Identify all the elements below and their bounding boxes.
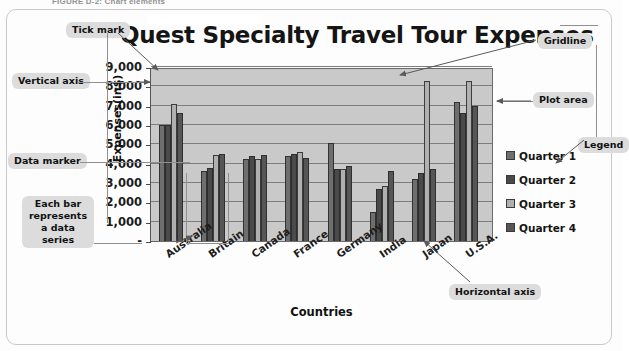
- data-marker-bar: [346, 166, 352, 241]
- chart-title: Quest Specialty Travel Tour Expenses: [120, 22, 510, 48]
- leader-line-data-marker: [80, 162, 190, 163]
- callout-plot-area: Plot area: [533, 92, 594, 108]
- vertical-axis-line: [150, 68, 151, 243]
- tick-mark: [146, 242, 151, 243]
- series-bracket-left: [186, 173, 187, 243]
- leader-line-gridline-top: [560, 25, 598, 26]
- legend-item-label: Quarter 2: [519, 174, 576, 186]
- x-axis-category-labels: AustraliaBritainCanadaFranceGermanyIndia…: [150, 244, 493, 296]
- bar-group: [279, 69, 321, 241]
- chart-legend: Quarter 1Quarter 2Quarter 3Quarter 4: [506, 150, 576, 246]
- data-marker-bar: [388, 171, 394, 241]
- bar-group: [153, 69, 195, 241]
- bar-group: [195, 69, 237, 241]
- legend-swatch-icon: [506, 223, 515, 232]
- plot-area: [150, 68, 493, 242]
- legend-swatch-icon: [506, 151, 515, 160]
- tick-mark: [146, 107, 151, 108]
- bar-groups: [151, 69, 492, 241]
- leader-line-legend-vertical: [596, 45, 597, 137]
- callout-horizontal-axis: Horizontal axis: [449, 284, 541, 300]
- leader-line-left-vertical: [107, 33, 108, 223]
- tick-mark: [146, 87, 151, 88]
- tick-mark: [146, 68, 151, 69]
- data-marker-bar: [472, 106, 478, 241]
- tick-mark: [146, 203, 151, 204]
- bar-group: [406, 69, 448, 241]
- data-marker-bar: [303, 158, 309, 241]
- callout-legend: Legend: [578, 137, 629, 153]
- gridline: [151, 66, 492, 67]
- bar-group: [322, 69, 364, 241]
- tick-mark: [146, 223, 151, 224]
- legend-item-label: Quarter 3: [519, 198, 576, 210]
- legend-item: Quarter 4: [506, 222, 576, 233]
- legend-swatch-icon: [506, 175, 515, 184]
- series-bracket-right: [228, 173, 229, 243]
- callout-data-series: Each bar represents a data series: [22, 196, 94, 248]
- y-axis-tick-label: 3,000: [106, 176, 142, 190]
- y-axis-tick-label: 2,000: [106, 195, 142, 209]
- legend-swatch-icon: [506, 199, 515, 208]
- callout-tick-mark: Tick mark: [66, 22, 130, 38]
- callout-gridline: Gridline: [538, 33, 592, 49]
- bar-group: [364, 69, 406, 241]
- legend-item: Quarter 3: [506, 198, 576, 209]
- data-marker-bar: [261, 155, 267, 241]
- y-axis-tick-label: -: [137, 234, 142, 248]
- y-axis-title: Expenses(in$): [111, 64, 124, 174]
- data-marker-bar: [177, 113, 183, 241]
- legend-item-label: Quarter 4: [519, 222, 576, 234]
- legend-item: Quarter 1: [506, 150, 576, 161]
- legend-item: Quarter 2: [506, 174, 576, 185]
- y-axis-tick-label: 1,000: [106, 215, 142, 229]
- leader-line-vertical-axis: [78, 82, 150, 83]
- figure-caption: FIGURE D-2: Chart elements: [52, 0, 165, 6]
- data-marker-bar: [219, 154, 225, 241]
- tick-mark: [146, 145, 151, 146]
- tick-mark: [146, 184, 151, 185]
- tick-mark: [146, 126, 151, 127]
- leader-line-plot-area: [497, 101, 533, 102]
- callout-vertical-axis: Vertical axis: [12, 73, 90, 89]
- data-marker-bar: [430, 169, 436, 241]
- bar-group: [448, 69, 490, 241]
- bar-group: [237, 69, 279, 241]
- legend-item-label: Quarter 1: [519, 150, 576, 162]
- callout-data-marker: Data marker: [8, 153, 87, 169]
- leader-line-data-series: [94, 243, 142, 244]
- tick-mark: [146, 165, 151, 166]
- series-bracket-bottom: [186, 243, 228, 244]
- x-axis-title: Countries: [150, 305, 493, 319]
